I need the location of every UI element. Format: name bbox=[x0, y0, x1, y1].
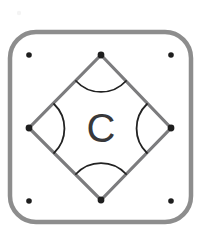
angle-arc-bottom bbox=[76, 163, 126, 174]
center-label: C bbox=[87, 106, 116, 150]
angle-arc-top bbox=[76, 81, 126, 92]
scan-speck-icon bbox=[17, 11, 21, 15]
angle-arc-right bbox=[137, 104, 147, 153]
dot-corner-bottom-left bbox=[26, 198, 32, 204]
dot-top bbox=[98, 52, 105, 59]
angle-arc-left bbox=[54, 104, 64, 153]
dot-corner-top-right bbox=[168, 52, 174, 58]
dot-corner-bottom-right bbox=[168, 198, 174, 204]
figure-root: C bbox=[0, 0, 206, 234]
dot-corner-top-left bbox=[26, 52, 32, 58]
dot-left bbox=[26, 125, 33, 132]
dot-right bbox=[168, 125, 175, 132]
dot-bottom bbox=[98, 197, 105, 204]
geometry-figure: C bbox=[0, 0, 206, 234]
